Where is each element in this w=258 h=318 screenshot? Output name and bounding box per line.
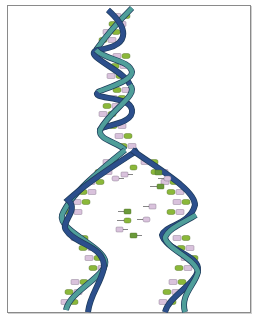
free-nucleotide	[117, 218, 131, 223]
free-nucleotides	[112, 165, 171, 238]
free-nucleotide	[121, 172, 133, 177]
free-nucleotide	[150, 184, 164, 189]
dna-replication-diagram	[0, 0, 258, 318]
free-nucleotide	[155, 170, 162, 175]
free-nucleotide	[116, 227, 128, 232]
free-nucleotide	[130, 233, 142, 238]
free-nucleotide	[118, 209, 131, 214]
free-nucleotide	[137, 217, 150, 222]
free-nucleotide	[130, 165, 137, 170]
free-nucleotide	[158, 176, 171, 181]
right-daughter-helix	[132, 150, 198, 312]
parent-helix	[94, 8, 136, 150]
free-nucleotide	[143, 204, 156, 209]
